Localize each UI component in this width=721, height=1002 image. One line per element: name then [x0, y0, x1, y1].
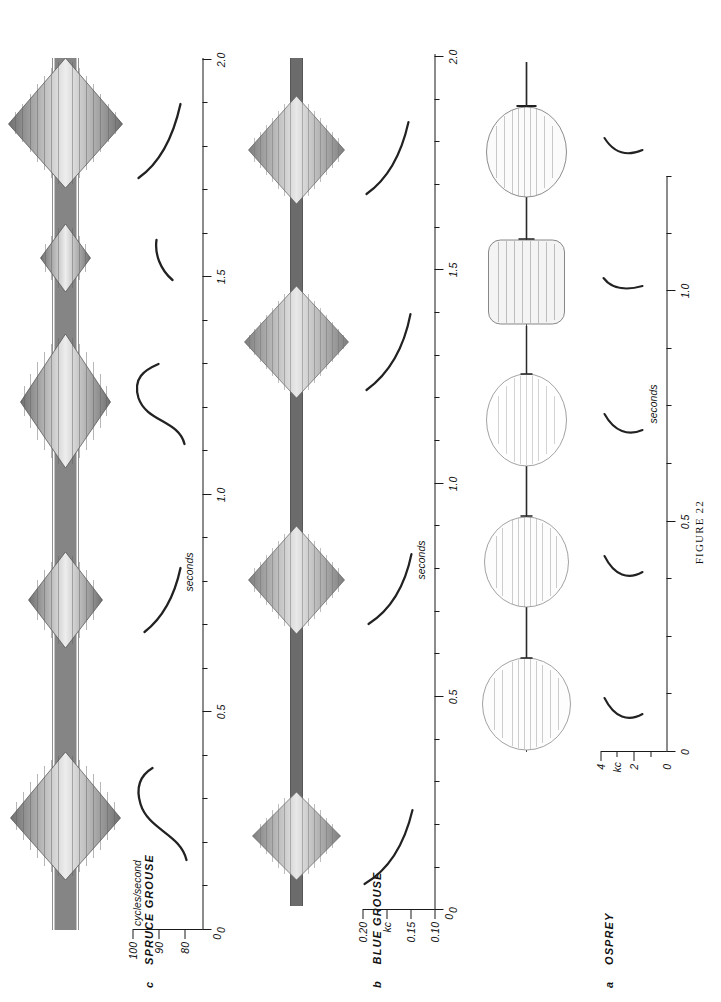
- blue-grouse-time-tick-3: 1.5: [446, 263, 458, 278]
- spruce-grouse-freq-axis-label: cycles/second: [130, 860, 142, 926]
- spruce-grouse-time-axis-label: seconds: [182, 552, 194, 591]
- blue-grouse-time-axis-label: seconds: [414, 540, 426, 579]
- panel-a-species: OSPREY: [602, 913, 614, 965]
- osprey-freq-tick-4: 4: [594, 764, 606, 786]
- osprey-time-axis-label: seconds: [646, 384, 658, 423]
- panel-c-letter: c: [142, 981, 154, 988]
- blue-grouse-frequency-axis: 0.20 0.15 0.10 0 kc: [362, 850, 438, 910]
- blue-grouse-freq-tick-0: 0: [442, 914, 454, 928]
- figure-plate: aOSPREY: [0, 0, 721, 1002]
- figure-caption: FIGURE 22: [693, 500, 705, 564]
- osprey-time-axis: 0 0.5 1.0 seconds: [666, 52, 706, 752]
- spruce-grouse-time-tick-4: 2.0: [214, 53, 226, 68]
- blue-grouse-freq-axis-label: kc: [380, 922, 392, 956]
- spruce-grouse-freq-tick-0: 0: [210, 934, 222, 948]
- blue-grouse-freq-tick-020: 0.20: [356, 922, 368, 956]
- blue-grouse-time-tick-2: 1.0: [446, 477, 458, 492]
- osprey-frequency-axis: 4 2 0 kc: [600, 692, 670, 752]
- blue-grouse-freq-tick-010: 0.10: [428, 922, 440, 956]
- blue-grouse-time-tick-0: 0: [446, 907, 458, 913]
- blue-grouse-time-axis: 0 0.5 1.0 1.5 2.0 seconds: [434, 30, 474, 910]
- panel-b-letter: b: [370, 980, 382, 988]
- blue-grouse-frequency-traces: [358, 58, 418, 910]
- osprey-freq-axis-label: kc: [610, 762, 622, 786]
- blue-grouse-freq-tick-015: 0.15: [404, 922, 416, 956]
- panel-a-label: aOSPREY: [602, 913, 614, 988]
- osprey-time-tick-0: 0: [678, 749, 690, 755]
- spruce-grouse-time-tick-3: 1.5: [214, 270, 226, 285]
- spruce-grouse-time-tick-1: 0.5: [214, 705, 226, 720]
- blue-grouse-oscillogram: [240, 58, 352, 910]
- panel-a-letter: a: [602, 981, 614, 988]
- spruce-grouse-time-axis: 0 0.5 1.0 1.5 2.0 seconds: [202, 30, 242, 930]
- spruce-grouse-freq-tick-80: 80: [178, 942, 190, 970]
- spruce-grouse-oscillogram: [6, 58, 124, 930]
- osprey-time-tick-2: 1.0: [678, 284, 690, 299]
- panel-spruce-grouse: cSPRUCE GROUSE: [2, 0, 242, 1002]
- panel-osprey: aOSPREY: [470, 0, 720, 1002]
- spruce-grouse-freq-tick-90: 90: [152, 942, 164, 970]
- spruce-grouse-freq-tick-100: 100: [126, 942, 138, 970]
- osprey-oscillogram: [472, 62, 580, 752]
- osprey-time-tick-1: 0.5: [678, 515, 690, 530]
- osprey-freq-tick-2: 2: [627, 764, 639, 786]
- spruce-grouse-frequency-axis: 100 90 80 0 cycles/second: [132, 870, 208, 930]
- spruce-grouse-frequency-traces: [128, 58, 190, 930]
- panel-blue-grouse: bBLUE GROUSE: [238, 0, 478, 1002]
- spruce-grouse-time-tick-0: 0: [214, 927, 226, 933]
- blue-grouse-time-tick-4: 2.0: [446, 50, 458, 65]
- blue-grouse-time-tick-1: 0.5: [446, 690, 458, 705]
- osprey-freq-tick-0: 0: [660, 764, 672, 786]
- osprey-frequency-traces: [598, 62, 646, 752]
- spruce-grouse-time-tick-2: 1.0: [214, 488, 226, 503]
